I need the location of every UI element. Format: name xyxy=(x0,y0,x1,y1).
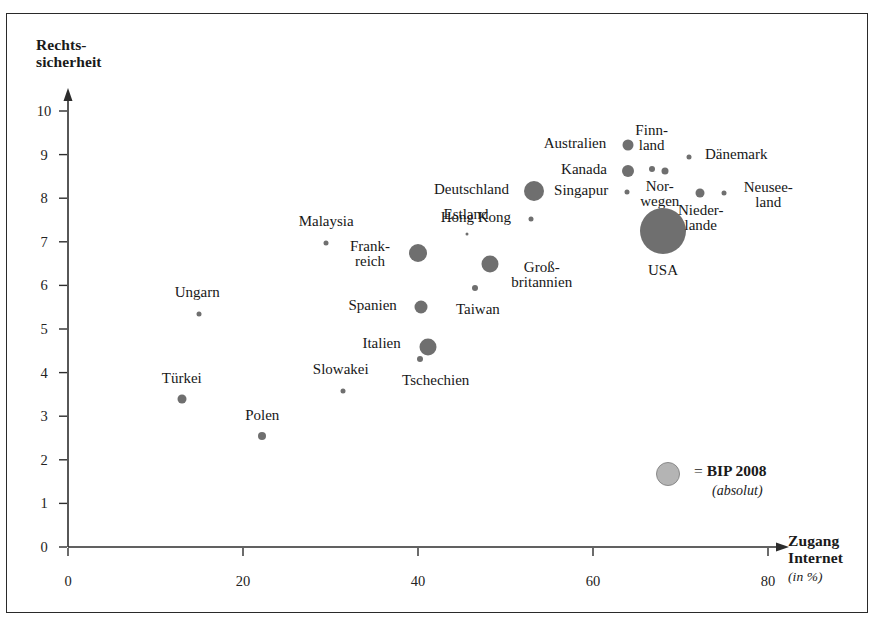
data-point-label: Finn- land xyxy=(635,123,668,155)
legend-sublabel: (absolut) xyxy=(712,483,763,498)
bubble-chart-figure: Rechts- sicherheit Zugang Internet (in %… xyxy=(0,0,878,626)
data-point-label: Frank- reich xyxy=(350,239,390,271)
data-bubble xyxy=(417,356,423,362)
data-point-label: Ungarn xyxy=(175,285,220,301)
data-point-label: Polen xyxy=(245,408,279,424)
legend-sublabel-line: (absolut) xyxy=(694,481,766,500)
y-tick-label: 7 xyxy=(40,233,47,250)
data-bubble xyxy=(661,167,668,174)
data-bubble xyxy=(524,181,544,201)
data-point-label: Malaysia xyxy=(299,214,354,230)
data-point-label: Tschechien xyxy=(402,373,469,389)
data-point-label: Deutschland xyxy=(434,182,509,198)
data-bubble xyxy=(623,139,634,150)
y-tick-label: 0 xyxy=(40,539,47,556)
x-tick-label: 60 xyxy=(586,573,601,590)
y-tick-label: 9 xyxy=(40,146,47,163)
x-tick-label: 40 xyxy=(411,573,426,590)
data-point-label: Dänemark xyxy=(705,147,767,163)
legend-bubble-marker xyxy=(656,462,680,486)
y-tick-label: 5 xyxy=(40,321,47,338)
data-bubble xyxy=(528,217,533,222)
data-point-label: Italien xyxy=(362,336,400,352)
data-point-label: USA xyxy=(648,263,678,279)
data-point-label: Spanien xyxy=(348,298,396,314)
data-bubble xyxy=(409,244,427,262)
data-bubble xyxy=(340,388,345,393)
data-point-label: Nor- wegen xyxy=(640,179,679,211)
data-bubble xyxy=(324,240,329,245)
data-point-label: Australien xyxy=(544,136,606,152)
data-bubble xyxy=(472,285,478,291)
data-point-label: Hong Kong xyxy=(441,210,511,226)
y-tick-label: 3 xyxy=(40,408,47,425)
data-bubble xyxy=(687,154,692,159)
y-tick-label: 1 xyxy=(40,495,47,512)
data-bubble xyxy=(258,432,266,440)
data-bubble xyxy=(722,190,727,195)
data-bubble xyxy=(419,339,436,356)
y-tick-label: 10 xyxy=(37,103,52,120)
legend-text: = BIP 2008 (absolut) xyxy=(694,462,766,500)
data-point-label: Kanada xyxy=(561,162,607,178)
legend-equals: = xyxy=(694,462,703,479)
legend-label-line: = BIP 2008 xyxy=(694,462,766,481)
data-bubble xyxy=(414,301,427,314)
data-bubble xyxy=(197,311,202,316)
data-bubble xyxy=(649,166,655,172)
data-point-label: Slowakei xyxy=(313,362,369,378)
data-bubble xyxy=(481,255,498,272)
y-tick-label: 4 xyxy=(40,364,47,381)
data-bubble xyxy=(466,232,469,235)
plot-axes-svg xyxy=(0,0,878,626)
data-bubble xyxy=(177,394,186,403)
data-point-label: Nieder- lande xyxy=(678,203,724,235)
data-point-label: Neusee- land xyxy=(744,180,793,212)
data-point-label: Groß- britannien xyxy=(511,260,572,292)
x-tick-label: 80 xyxy=(761,573,776,590)
x-tick-label: 20 xyxy=(236,573,251,590)
data-point-label: Singapur xyxy=(554,183,608,199)
legend-label: BIP 2008 xyxy=(707,462,767,479)
data-bubble xyxy=(625,189,630,194)
data-point-label: Taiwan xyxy=(456,302,500,318)
y-tick-label: 8 xyxy=(40,190,47,207)
data-bubble xyxy=(622,165,634,177)
data-point-label: Türkei xyxy=(162,371,202,387)
y-tick-label: 6 xyxy=(40,277,47,294)
x-tick-label: 0 xyxy=(64,573,71,590)
y-tick-label: 2 xyxy=(40,451,47,468)
data-bubble xyxy=(695,188,704,197)
